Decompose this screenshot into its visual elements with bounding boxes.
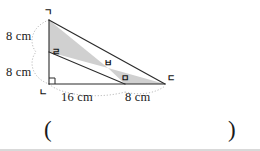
screenshot-root: ㄱ ㄹ ㄴ ㅂ ㅁ ㄷ 8 cm 8 cm 16 cm 8 cm ( ) (0, 0, 260, 151)
dimension-label-bottom-left: 16 cm (61, 90, 93, 104)
vertex-label-bieup: ㅂ (104, 58, 112, 68)
right-angle-marker-nieun (49, 78, 55, 84)
large-shaded-triangle (49, 20, 108, 68)
vertex-label-giyeok: ㄱ (44, 7, 52, 17)
answer-open-paren: ( (44, 117, 52, 142)
dimension-label-bottom-right: 8 cm (125, 90, 151, 104)
vertex-label-rieul: ㄹ (52, 47, 60, 57)
answer-close-paren: ) (228, 117, 236, 142)
small-shaded-triangle (108, 68, 165, 84)
dimension-label-left-lower: 8 cm (6, 65, 32, 79)
dimension-label-left-upper: 8 cm (6, 29, 32, 43)
vertex-label-nieun: ㄴ (39, 87, 47, 97)
vertex-label-digeut: ㄷ (167, 73, 175, 83)
vertex-label-mieum: ㅁ (121, 73, 129, 83)
bottom-divider (0, 149, 260, 151)
geometry-figure: ㄱ ㄹ ㄴ ㅂ ㅁ ㄷ 8 cm 8 cm 16 cm 8 cm ( ) (0, 0, 260, 151)
dotted-arc-left (32, 20, 49, 84)
